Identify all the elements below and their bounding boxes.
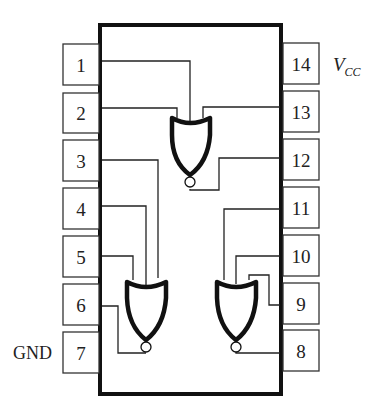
pin-label-3: 3 bbox=[76, 151, 86, 172]
pin-label-8: 8 bbox=[296, 341, 306, 362]
pin-label-12: 12 bbox=[292, 150, 311, 171]
ic-pinout-diagram: 1 2 3 4 5 6 7 14 13 12 11 10 9 8 VCC GND bbox=[0, 0, 376, 414]
vcc-label: VCC bbox=[333, 54, 362, 79]
nor-gate-bottom-right bbox=[217, 282, 256, 352]
inversion-bubble bbox=[185, 177, 195, 187]
pin-label-2: 2 bbox=[76, 103, 86, 124]
inversion-bubble bbox=[231, 342, 241, 352]
nor-gate-bottom-left bbox=[127, 282, 166, 352]
pin-label-5: 5 bbox=[76, 247, 86, 268]
pin-label-4: 4 bbox=[76, 199, 86, 220]
inversion-bubble bbox=[141, 342, 151, 352]
pin-label-13: 13 bbox=[292, 102, 311, 123]
pin-label-1: 1 bbox=[76, 55, 86, 76]
pin-label-10: 10 bbox=[292, 246, 311, 267]
pin-label-14: 14 bbox=[292, 54, 312, 75]
gnd-label: GND bbox=[13, 343, 52, 363]
pin-label-9: 9 bbox=[296, 294, 306, 315]
nor-gate-top bbox=[172, 118, 210, 187]
pin-label-6: 6 bbox=[76, 295, 86, 316]
pin-label-11: 11 bbox=[292, 198, 310, 219]
pin-label-7: 7 bbox=[76, 343, 86, 364]
